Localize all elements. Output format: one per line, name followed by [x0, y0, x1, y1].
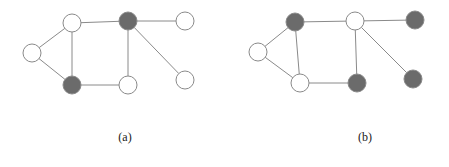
- figure-two-graph-diagrams: (a) (b): [0, 0, 449, 167]
- edges-panel-a: [39, 21, 179, 85]
- graph-edge: [81, 21, 119, 22]
- graph-node-b-top-mid: [346, 12, 364, 30]
- graph-node-a-top-right: [176, 12, 194, 30]
- graph-node-b-left: [249, 43, 267, 61]
- graph-node-a-bot-left: [63, 76, 81, 94]
- graph-edge: [355, 30, 356, 74]
- graph-node-b-top-left: [286, 13, 304, 31]
- graph-node-b-top-right: [406, 11, 424, 29]
- graph-edge: [265, 57, 293, 77]
- graph-edge: [134, 27, 179, 73]
- graph-edge: [265, 28, 288, 47]
- panel-caption-a: (a): [105, 130, 145, 145]
- graph-edge: [304, 21, 346, 22]
- nodes-panel-a: [23, 12, 194, 94]
- graph-node-a-left: [23, 44, 41, 62]
- graph-node-a-top-mid: [119, 12, 137, 30]
- panel-caption-b: (b): [345, 130, 385, 145]
- nodes-panel-b: [249, 11, 424, 92]
- graph-edge: [39, 59, 65, 80]
- nodes-layer: [23, 11, 424, 94]
- graph-node-a-bot-mid: [119, 76, 137, 94]
- edges-panel-b: [265, 20, 407, 83]
- graph-edge: [364, 20, 406, 21]
- graph-edge: [39, 28, 65, 47]
- graph-node-b-bot-right: [404, 70, 422, 88]
- graph-edge: [296, 31, 300, 74]
- graph-node-b-bot-mid: [348, 74, 366, 92]
- graph-edge: [361, 27, 406, 72]
- graph-node-a-bot-right: [176, 71, 194, 89]
- graph-node-b-bot-left: [291, 74, 309, 92]
- graph-node-a-top-left: [63, 14, 81, 32]
